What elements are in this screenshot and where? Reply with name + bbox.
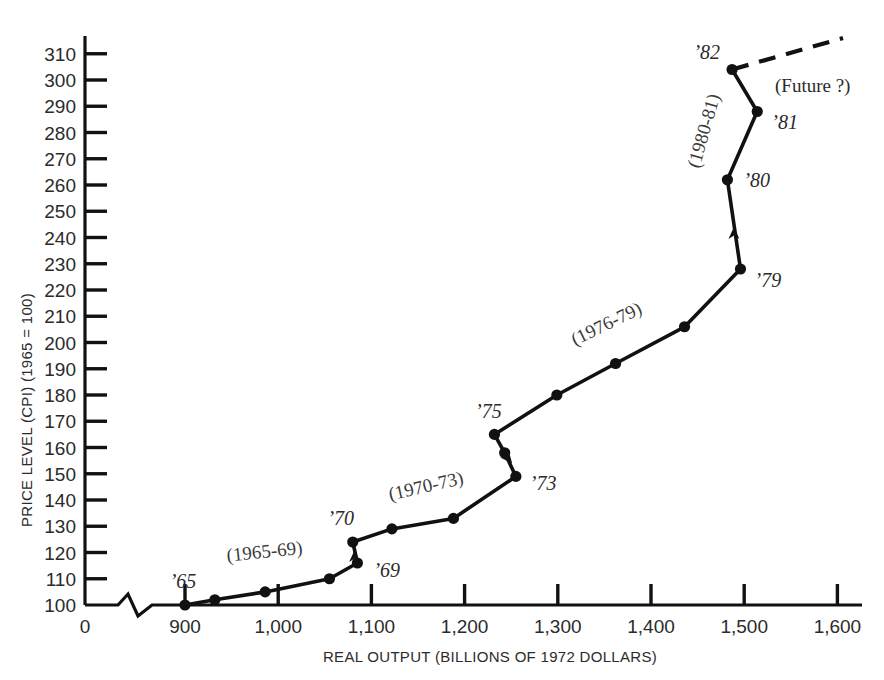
- y-tick-label: 230: [44, 254, 76, 275]
- y-tick-label: 180: [44, 385, 76, 406]
- y-tick-label: 110: [46, 569, 76, 590]
- point-label-1973: ’73: [530, 472, 557, 494]
- point-label-1982: ’82: [693, 41, 720, 63]
- y-tick-label: 260: [44, 175, 76, 196]
- y-tick-label: 300: [44, 70, 76, 91]
- data-point-1972[interactable]: [448, 513, 459, 524]
- segment-annotation-1: (1970-73): [386, 467, 465, 506]
- data-point-1971[interactable]: [386, 523, 397, 534]
- x-axis-title: REAL OUTPUT (BILLIONS OF 1972 DOLLARS): [323, 648, 657, 665]
- y-tick-label: 190: [44, 359, 76, 380]
- data-point-1968[interactable]: [324, 573, 335, 584]
- point-label-1975: ’75: [475, 400, 502, 422]
- data-point-1977[interactable]: [610, 358, 621, 369]
- chart-figure: 1001101201301401501601701801902002102202…: [0, 0, 884, 680]
- point-label-1969: ’69: [373, 559, 400, 581]
- y-tick-label: 160: [44, 438, 76, 459]
- y-tick-label: 200: [44, 333, 76, 354]
- y-axis-title: PRICE LEVEL (CPI) (1965 = 100): [18, 293, 35, 527]
- point-label-1970: ’70: [327, 507, 354, 529]
- segment-annotation-3: (1980-81): [683, 91, 725, 170]
- y-tick-label: 100: [44, 595, 76, 616]
- y-tick-label: 310: [44, 44, 76, 65]
- point-label-1980: ’80: [743, 169, 770, 191]
- data-point-1966[interactable]: [209, 594, 220, 605]
- segment-annotation-2: (1976-79): [567, 297, 645, 350]
- y-tick-label: 130: [44, 516, 76, 537]
- data-point-1965[interactable]: [179, 599, 190, 610]
- direction-arrow-2-head: [728, 227, 739, 239]
- price-level-vs-real-output-chart: 1001101201301401501601701801902002102202…: [0, 0, 884, 680]
- x-tick-label: 1,500: [720, 616, 768, 637]
- y-tick-label: 150: [44, 464, 76, 485]
- y-tick-label: 210: [44, 306, 76, 327]
- x-tick-label: 1,600: [814, 616, 862, 637]
- segment-annotation-0: (1965-69): [226, 537, 304, 567]
- data-point-1970[interactable]: [347, 536, 358, 547]
- data-point-1979[interactable]: [735, 263, 746, 274]
- y-tick-label: 140: [44, 490, 76, 511]
- x-tick-label: 1,000: [254, 616, 302, 637]
- y-tick-label: 280: [44, 123, 76, 144]
- point-label-1981: ’81: [771, 111, 798, 133]
- data-point-1980[interactable]: [722, 174, 733, 185]
- y-tick-label: 240: [44, 228, 76, 249]
- y-tick-label: 220: [44, 280, 76, 301]
- y-tick-label: 170: [44, 411, 76, 432]
- point-label-1965: ’65: [170, 570, 197, 592]
- data-point-1975[interactable]: [489, 429, 500, 440]
- data-line: [185, 70, 757, 606]
- data-point-1976[interactable]: [551, 389, 562, 400]
- data-point-1978[interactable]: [679, 321, 690, 332]
- future-dashed-line: [732, 38, 843, 70]
- data-point-1981[interactable]: [752, 106, 763, 117]
- x-tick-label: 1,300: [534, 616, 582, 637]
- future-label: (Future ?): [775, 75, 850, 97]
- x-zero-label: 0: [80, 616, 91, 637]
- data-point-1982[interactable]: [726, 64, 737, 75]
- point-label-1979: ’79: [754, 269, 781, 291]
- y-tick-label: 290: [44, 96, 76, 117]
- y-tick-label: 120: [44, 543, 76, 564]
- direction-arrow-2: [728, 227, 739, 239]
- x-tick-label: 1,400: [627, 616, 675, 637]
- x-tick-label: 1,200: [441, 616, 489, 637]
- y-tick-label: 270: [44, 149, 76, 170]
- data-point-1967[interactable]: [260, 586, 271, 597]
- x-tick-label: 1,100: [348, 616, 396, 637]
- x-tick-label: 900: [169, 616, 201, 637]
- y-tick-label: 250: [44, 201, 76, 222]
- data-point-1973[interactable]: [510, 471, 521, 482]
